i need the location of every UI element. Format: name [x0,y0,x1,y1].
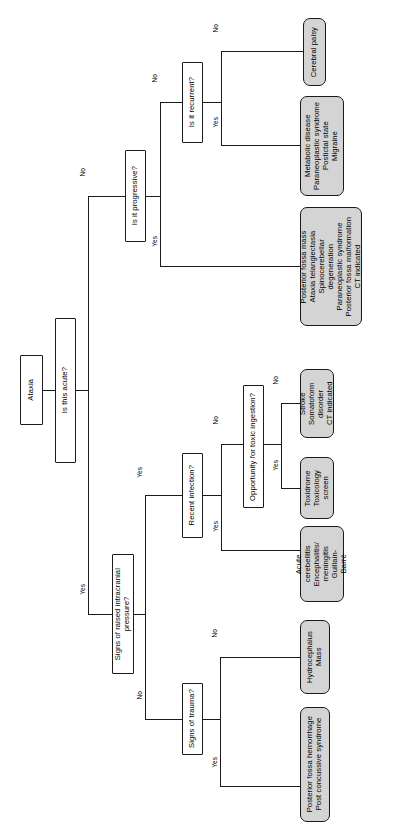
edge-toxic-spine [281,403,282,489]
edge-label-progressive-yes: Yes [151,236,158,247]
node-outcome-acute-cerebellitis[interactable]: Acute cerebellitis Encephalitis/ meningi… [300,526,344,602]
edge-label-toxic-yes: Yes [272,460,279,471]
edge-acute-spine [88,196,89,615]
edge-root-to-acute [43,390,55,391]
edge-label-recurrent-no: No [212,24,219,32]
node-decision-recent-infection[interactable]: Recent infection? [182,453,203,538]
edge-label-trauma-yes: Yes [211,757,218,768]
edge-progressive-spine [160,102,161,267]
edge-label-infection-yes: Yes [212,521,219,532]
node-outcome-acute-cerebellitis-label: Acute cerebellitis Encephalitis/ meningi… [295,542,349,586]
edge-recurrent-out [202,102,222,103]
edge-progressive-yes [160,266,300,267]
node-decision-is-this-acute[interactable]: Is this acute? [55,318,76,463]
node-decision-recent-infection-label: Recent infection? [188,465,197,525]
edge-label-icp-yes: Yes [136,467,143,478]
node-outcome-hydrocephalus-label: Hydrocephalus Mass [306,631,324,683]
edge-progressive-out [145,196,161,197]
node-decision-toxic-ingestion-label: Opportunity for toxic ingestion? [249,393,258,501]
node-decision-is-it-progressive-label: Is it progressive? [131,166,140,225]
node-root-ataxia[interactable]: Ataxia [20,355,43,425]
edge-label-icp-no: No [136,691,143,699]
flowchart-canvas: No Yes No Yes No Yes Yes No No Yes No Ye… [0,0,395,830]
node-root-ataxia-label: Ataxia [27,379,36,401]
edge-recurrent-no [221,51,303,52]
node-decision-is-this-acute-label: Is this acute? [61,367,70,413]
node-outcome-posterior-fossa-hemorrhage-label: Posterior fossa hemorrhage Post concussi… [306,716,324,812]
edge-infection-spine [221,444,222,551]
node-decision-is-it-progressive[interactable]: Is it progressive? [125,150,146,242]
edge-label-trauma-no: No [211,629,218,637]
edge-label-recurrent-yes: Yes [212,117,219,128]
node-decision-is-it-recurrent[interactable]: Is it recurrent? [182,62,203,143]
node-outcome-posterior-fossa-mass-label: Posterior fossa mass Ataxia telangiectas… [300,217,363,316]
node-outcome-metabolic-disease-label: Metabolic disease Paraneoplastic syndrom… [304,102,340,190]
edge-infection-out [202,495,222,496]
edge-toxic-yes [281,488,300,489]
node-decision-raised-icp-label: Signs of raised intracranial pressure? [114,568,132,660]
edge-acute-out [75,390,89,391]
edge-infection-no [221,444,243,445]
edge-icp-spine [145,495,146,720]
edge-recurrent-yes [221,145,300,146]
edge-infection-yes [221,550,300,551]
node-decision-signs-of-trauma[interactable]: Signs of trauma? [182,683,203,755]
edge-recurrent-spine [221,51,222,146]
node-decision-is-it-recurrent-label: Is it recurrent? [188,77,197,127]
edge-progressive-no [160,102,182,103]
node-outcome-posterior-fossa-mass[interactable]: Posterior fossa mass Ataxia telangiectas… [300,207,362,326]
node-outcome-hydrocephalus[interactable]: Hydrocephalus Mass [300,620,330,694]
edge-label-progressive-no: No [151,74,158,82]
node-outcome-toxidrome[interactable]: Toxidrome Toxicology screen [300,457,334,519]
node-decision-toxic-ingestion[interactable]: Opportunity for toxic ingestion? [243,385,264,508]
edge-acute-no [88,196,125,197]
edge-trauma-out [202,719,221,720]
edge-label-acute-no: No [79,168,86,176]
node-outcome-cerebral-palsy[interactable]: Cerebral palsy [303,18,326,86]
edge-icp-yes [145,495,182,496]
node-outcome-posterior-fossa-hemorrhage[interactable]: Posterior fossa hemorrhage Post concussi… [300,707,330,822]
edge-trauma-yes [220,786,300,787]
node-decision-raised-icp[interactable]: Signs of raised intracranial pressure? [112,554,134,674]
edge-toxic-out [263,444,282,445]
edge-label-toxic-no: No [272,376,279,384]
node-decision-signs-of-trauma-label: Signs of trauma? [188,689,197,748]
node-outcome-stroke[interactable]: Stroke Somatoform disorder CT indicated [300,369,334,438]
node-outcome-metabolic-disease[interactable]: Metabolic disease Paraneoplastic syndrom… [300,96,344,196]
node-outcome-stroke-label: Stroke Somatoform disorder CT indicated [299,370,335,437]
edge-trauma-no [220,657,300,658]
node-outcome-cerebral-palsy-label: Cerebral palsy [310,27,319,77]
node-outcome-toxidrome-label: Toxidrome Toxicology screen [304,470,331,506]
edge-acute-yes [88,614,112,615]
edge-label-infection-no: No [212,416,219,424]
edge-trauma-spine [220,657,221,787]
edge-icp-no [145,719,182,720]
edge-label-acute-yes: Yes [79,584,86,595]
